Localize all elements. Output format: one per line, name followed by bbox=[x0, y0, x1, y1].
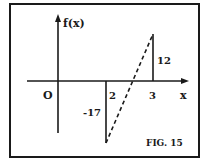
y-axis-arrow-icon bbox=[55, 14, 61, 22]
figure-caption: FIG. 15 bbox=[146, 138, 183, 148]
y-axis-label: f(x) bbox=[63, 17, 85, 30]
value-label-12: 12 bbox=[157, 55, 171, 66]
origin-label: O bbox=[43, 89, 53, 102]
value-label-neg17: -17 bbox=[83, 107, 101, 118]
x-axis-arrow-icon bbox=[181, 78, 189, 84]
x-tick-2: 2 bbox=[109, 90, 116, 101]
dashed-connector bbox=[106, 34, 153, 143]
x-tick-3: 3 bbox=[149, 90, 156, 101]
figure-15-diagram: f(x) O 2 3 x -17 12 FIG. 15 bbox=[0, 0, 203, 163]
x-axis-label: x bbox=[180, 89, 187, 102]
